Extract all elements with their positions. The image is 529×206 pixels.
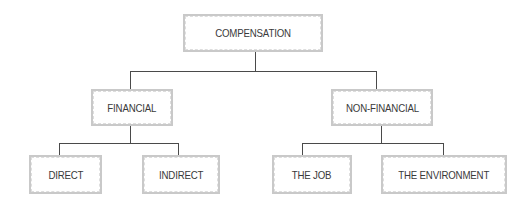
node-label: FINANCIAL <box>108 102 157 114</box>
connector-non-financial-bar <box>302 143 444 144</box>
connector-financial-drop <box>130 71 131 89</box>
node-label: INDIRECT <box>159 169 203 181</box>
node-label: DIRECT <box>48 169 83 181</box>
node-the-job: THE JOB <box>272 155 352 194</box>
connector-indirect-drop <box>178 143 179 155</box>
node-label: THE ENVIRONMENT <box>399 169 490 181</box>
node-label: THE JOB <box>292 169 332 181</box>
connector-financial-stem <box>130 126 131 143</box>
connector-direct-drop <box>59 143 60 155</box>
node-non-financial: NON-FINANCIAL <box>331 89 433 126</box>
node-label: COMPENSATION <box>215 27 291 39</box>
connector-non-financial-stem <box>381 126 382 143</box>
connector-the-job-drop <box>302 143 303 155</box>
node-compensation: COMPENSATION <box>183 14 323 52</box>
node-direct: DIRECT <box>29 155 102 194</box>
connector-root-stem <box>255 52 256 71</box>
connector-non-financial-drop <box>376 71 377 89</box>
node-financial: FINANCIAL <box>91 89 173 126</box>
connector-level1-bar <box>130 71 377 72</box>
node-the-environment: THE ENVIRONMENT <box>381 155 507 194</box>
node-indirect: INDIRECT <box>142 155 220 194</box>
connector-the-environment-drop <box>443 143 444 155</box>
connector-financial-bar <box>59 143 179 144</box>
node-label: NON-FINANCIAL <box>345 102 418 114</box>
